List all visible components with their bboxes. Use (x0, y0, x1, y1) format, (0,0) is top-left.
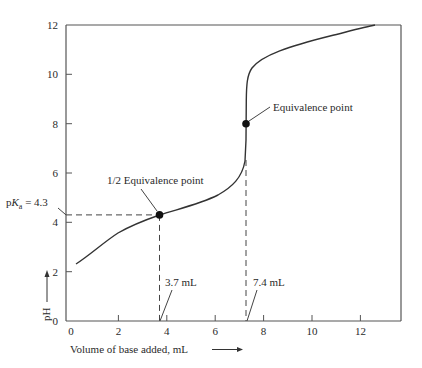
pka-label: pKa = 4.3 (6, 196, 48, 211)
x-axis-title: Volume of base added, mL (70, 343, 188, 355)
x-axis-ticks (118, 315, 360, 321)
y-tick-label: 6 (53, 167, 59, 179)
equivalence-leader-line (249, 107, 270, 121)
y-tick-label: 10 (47, 68, 59, 80)
half-equivalence-leader-line (141, 189, 157, 211)
equivalence-volume-leader (247, 290, 257, 321)
x-tick-label: 4 (164, 325, 170, 337)
y-tick-label: 2 (53, 266, 59, 278)
x-tick-label: 6 (212, 325, 218, 337)
equivalence-point-marker (242, 120, 250, 128)
x-axis-arrow-icon (212, 347, 243, 352)
half-equivalence-volume-leader (160, 290, 172, 321)
x-axis-tick-labels: 0 2 4 6 8 10 12 (68, 325, 366, 337)
y-tick-label: 0 (53, 315, 59, 327)
y-tick-label: 4 (53, 216, 59, 228)
half-equivalence-point-label: 1/2 Equivalence point (107, 174, 204, 186)
x-tick-label: 8 (261, 325, 267, 337)
titration-curve-line (76, 25, 375, 264)
half-equivalence-point-marker (156, 211, 164, 219)
pka-leader-line (58, 208, 66, 215)
equivalence-volume-label: 7.4 mL (253, 276, 285, 288)
x-tick-label: 2 (116, 325, 122, 337)
x-tick-label: 12 (355, 325, 366, 337)
y-tick-label: 12 (47, 19, 58, 31)
y-tick-label: 8 (53, 118, 59, 130)
half-equivalence-volume-label: 3.7 mL (165, 276, 197, 288)
y-axis-title: pH (40, 308, 52, 322)
plot-frame (66, 25, 401, 321)
titration-curve-chart: 0 2 4 6 8 10 12 0 2 4 6 8 10 12 Volume o… (0, 0, 422, 368)
y-axis-ticks (66, 74, 72, 271)
y-axis-tick-labels: 0 2 4 6 8 10 12 (47, 19, 59, 327)
x-tick-label: 10 (307, 325, 319, 337)
y-axis-arrow-icon (45, 270, 50, 302)
equivalence-point-label: Equivalence point (273, 101, 353, 113)
x-tick-label: 0 (68, 325, 74, 337)
